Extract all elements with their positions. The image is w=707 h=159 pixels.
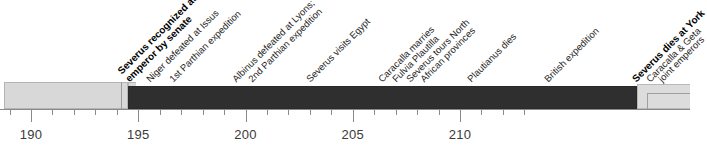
- axis-tick-minor: [310, 109, 311, 115]
- bar-pre-reign: [4, 82, 128, 109]
- bar-reign-of-severus: [128, 86, 637, 109]
- axis-tick-major: [246, 109, 247, 122]
- axis-tick-minor: [117, 109, 118, 115]
- bar-divider: [121, 82, 122, 109]
- event-label: Plautianus dies: [466, 31, 519, 84]
- axis-tick-minor: [503, 109, 504, 115]
- axis-tick-label: 195: [127, 127, 150, 142]
- bar-successors-inner-rule: [647, 93, 690, 109]
- axis-tick-minor: [267, 109, 268, 115]
- axis-tick-minor: [417, 109, 418, 115]
- axis-line: [0, 109, 690, 110]
- axis-tick-minor: [439, 109, 440, 115]
- axis-tick-major: [460, 109, 461, 122]
- axis-tick-minor: [74, 109, 75, 115]
- axis-tick-minor: [331, 109, 332, 115]
- axis-tick-minor: [288, 109, 289, 115]
- axis-tick-minor: [374, 109, 375, 115]
- event-label: Albinus defeated at Lyons;: [231, 0, 317, 84]
- axis-tick-minor: [203, 109, 204, 115]
- event-label: Severus visits Egypt: [305, 16, 373, 84]
- axis-tick-label: 190: [20, 127, 43, 142]
- axis-tick-minor: [10, 109, 11, 115]
- axis-tick-minor: [396, 109, 397, 115]
- axis-tick-minor: [224, 109, 225, 115]
- axis-tick-major: [353, 109, 354, 122]
- time-axis: 190195200205210: [0, 109, 690, 159]
- axis-tick-label: 210: [449, 127, 472, 142]
- axis-tick-minor: [481, 109, 482, 115]
- axis-tick-minor: [181, 109, 182, 115]
- axis-tick-major: [138, 109, 139, 122]
- event-label: British expedition: [543, 25, 602, 84]
- axis-tick-minor: [95, 109, 96, 115]
- axis-tick-minor: [160, 109, 161, 115]
- axis-tick-minor: [52, 109, 53, 115]
- axis-tick-label: 205: [341, 127, 364, 142]
- axis-tick-minor: [524, 109, 525, 115]
- axis-tick-major: [31, 109, 32, 122]
- event-label-line2: emperor by senate: [124, 0, 208, 84]
- axis-tick-label: 200: [234, 127, 257, 142]
